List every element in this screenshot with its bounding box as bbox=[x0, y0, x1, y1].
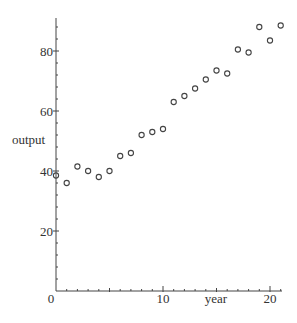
data-point bbox=[257, 24, 262, 29]
x-tick-label: 20 bbox=[264, 291, 277, 306]
data-point bbox=[171, 99, 176, 104]
data-point bbox=[118, 153, 123, 158]
data-point bbox=[86, 168, 91, 173]
y-tick-label: 20 bbox=[40, 224, 53, 239]
data-point bbox=[182, 93, 187, 98]
data-point bbox=[150, 129, 155, 134]
scatter-chart: 102020406080 year output 0 bbox=[0, 0, 297, 323]
tick-labels: 102020406080 bbox=[40, 44, 277, 307]
data-point bbox=[278, 23, 283, 28]
data-point bbox=[214, 68, 219, 73]
data-point bbox=[203, 77, 208, 82]
data-point bbox=[246, 50, 251, 55]
data-point bbox=[128, 150, 133, 155]
x-axis-label: year bbox=[205, 291, 228, 306]
data-points bbox=[53, 23, 283, 186]
data-point bbox=[235, 47, 240, 52]
y-axis-label: output bbox=[12, 132, 46, 147]
y-tick-label: 40 bbox=[40, 164, 53, 179]
data-point bbox=[64, 180, 69, 185]
data-point bbox=[107, 168, 112, 173]
y-tick-label: 60 bbox=[40, 104, 53, 119]
minor-ticks bbox=[56, 27, 281, 291]
data-point bbox=[225, 71, 230, 76]
data-point bbox=[160, 126, 165, 131]
data-point bbox=[193, 86, 198, 91]
data-point bbox=[75, 164, 80, 169]
data-point bbox=[96, 174, 101, 179]
x-tick-label: 10 bbox=[157, 291, 170, 306]
data-point bbox=[139, 132, 144, 137]
y-tick-label: 80 bbox=[40, 44, 53, 59]
data-point bbox=[267, 38, 272, 43]
origin-label: 0 bbox=[48, 291, 55, 306]
